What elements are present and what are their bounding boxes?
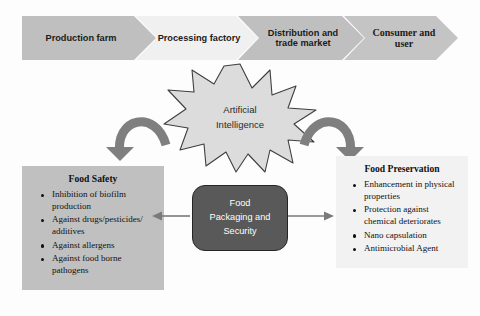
center-node-line1: Food: [230, 197, 251, 211]
center-node-line2: Packaging and: [210, 211, 271, 225]
panel-food-safety: Food Safety Inhibition of biofilm produc…: [22, 166, 164, 290]
food-packaging-security-node: Food Packaging and Security: [192, 185, 288, 251]
starburst-shape: [162, 62, 318, 174]
list-item: Enhancement in physical properties: [364, 179, 462, 203]
list-item: Nano capsulation: [364, 230, 462, 242]
chevron-distribution-trade-market-label: Distribution and trade market: [256, 28, 350, 49]
list-item: Against drugs/pesticides/ additives: [52, 214, 156, 238]
artificial-intelligence-node: Artificial Intelligence: [162, 62, 318, 174]
curved-arrow-down-left-icon: [96, 103, 174, 161]
arrow-right-icon: [288, 210, 334, 222]
panel-food-preservation-list: Enhancement in physical properties Prote…: [342, 179, 462, 255]
diagram-canvas: Production farm Processing factory Distr…: [0, 0, 480, 316]
panel-food-safety-title: Food Safety: [30, 173, 156, 184]
panel-food-preservation-title: Food Preservation: [342, 163, 462, 174]
list-item: Protection against chemical deteriorates: [364, 204, 462, 228]
curved-arrow-down-right-icon: [296, 103, 374, 161]
arrow-left-icon: [152, 210, 190, 222]
chevron-processing-factory-label: Processing factory: [156, 33, 243, 43]
center-node-line3: Security: [223, 225, 256, 239]
supply-chain-flow: Production farm Processing factory Distr…: [22, 16, 458, 60]
panel-food-preservation: Food Preservation Enhancement in physica…: [336, 156, 468, 268]
list-item: Against food borne pathogens: [52, 253, 156, 277]
panel-food-safety-list: Inhibition of biofilm production Against…: [30, 189, 156, 277]
list-item: Inhibition of biofilm production: [52, 189, 156, 213]
list-item: Against allergens: [52, 240, 156, 252]
list-item: Antimicrobial Agent: [364, 243, 462, 255]
chevron-consumer-user-label: Consumer and user: [362, 27, 446, 49]
chevron-production-farm-label: Production farm: [44, 33, 119, 43]
chevron-production-farm: Production farm: [22, 16, 156, 60]
